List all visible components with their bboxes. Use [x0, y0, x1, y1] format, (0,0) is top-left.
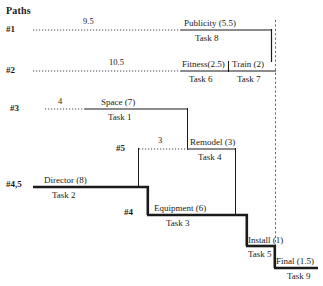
path4-task9-number: Task 9 — [287, 272, 311, 281]
path-chart-canvas: Paths #1 9.5 Publicity (5.5) Task 8 #2 1… — [0, 0, 323, 286]
path3-lag-value: 4 — [58, 97, 62, 106]
path5-lag-value: 3 — [158, 136, 162, 145]
path4-task5-number: Task 5 — [248, 250, 272, 259]
page-title: Paths — [6, 6, 31, 16]
path3-task-number: Task 1 — [108, 113, 132, 122]
path45-task-number: Task 2 — [52, 191, 76, 200]
path1-task-name: Publicity (5.5) — [184, 19, 236, 28]
path45-task-name: Director (8) — [44, 176, 87, 185]
path5-task-name: Remodel (3) — [190, 138, 235, 147]
path4-task3-number: Task 3 — [166, 219, 190, 228]
path2-lag-value: 10.5 — [109, 58, 124, 67]
path1-task-number: Task 8 — [195, 34, 219, 43]
path-label-5: #5 — [116, 144, 125, 153]
path2-task6-number: Task 6 — [189, 75, 213, 84]
path-label-4: #4 — [124, 208, 133, 217]
path2-task6-name: Fitness(2.5) — [182, 60, 225, 69]
path2-task7-name: Train (2) — [232, 60, 264, 69]
path-label-4-5: #4,5 — [6, 180, 22, 189]
path2-task7-number: Task 7 — [237, 75, 261, 84]
path4-task5-name: Install (1) — [248, 236, 283, 245]
path4-task9-name: Final (1.5) — [276, 257, 314, 266]
path5-task-number: Task 4 — [198, 153, 222, 162]
path-label-3: #3 — [10, 104, 19, 113]
path1-lag-value: 9.5 — [83, 17, 94, 26]
path3-task-name: Space (7) — [101, 98, 135, 107]
path4-task3-name: Equipment (6) — [154, 204, 206, 213]
path-label-1: #1 — [6, 25, 15, 34]
path-label-2: #2 — [6, 66, 15, 75]
